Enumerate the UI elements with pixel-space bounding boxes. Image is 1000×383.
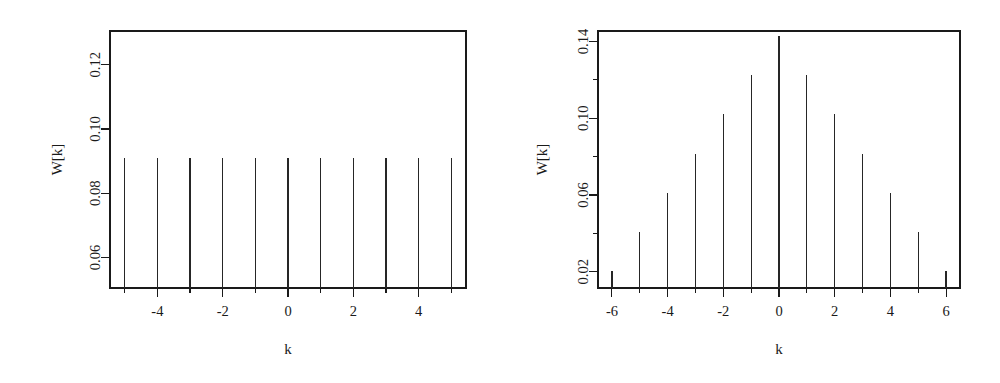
right-plot-svg: -6-4-202460.020.060.100.14kW[k] <box>500 0 1000 383</box>
x-tick-label: 6 <box>942 303 949 319</box>
y-tick-label: 0.08 <box>87 181 103 206</box>
y-tick-label: 0.12 <box>87 52 103 77</box>
x-tick-label: -2 <box>217 303 229 319</box>
x-tick-label: -6 <box>606 303 618 319</box>
x-tick-label: 2 <box>831 303 838 319</box>
x-axis-title: k <box>775 341 783 357</box>
x-tick-label: 0 <box>284 303 291 319</box>
y-tick-label: 0.02 <box>575 259 591 284</box>
y-axis-title: W[k] <box>534 144 550 176</box>
y-tick-label: 0.06 <box>87 245 103 270</box>
panel-rectangular-window: -4-20240.060.080.100.12kW[k] <box>0 0 500 383</box>
x-tick-label: 4 <box>887 303 895 319</box>
x-tick-label: -2 <box>717 303 729 319</box>
y-tick-label: 0.14 <box>575 28 591 54</box>
x-tick-label: -4 <box>151 303 164 319</box>
y-tick-label: 0.10 <box>575 106 591 131</box>
y-tick-label: 0.06 <box>575 182 591 207</box>
x-axis-title: k <box>284 341 292 357</box>
y-tick-label: 0.10 <box>87 116 103 141</box>
x-tick-label: 2 <box>350 303 357 319</box>
x-tick-label: -4 <box>662 303 675 319</box>
panel-triangular-window: -6-4-202460.020.060.100.14kW[k] <box>500 0 1000 383</box>
x-tick-label: 0 <box>775 303 782 319</box>
left-plot-svg: -4-20240.060.080.100.12kW[k] <box>0 0 500 383</box>
x-tick-label: 4 <box>415 303 423 319</box>
y-axis-title: W[k] <box>49 144 65 176</box>
figure-root: -4-20240.060.080.100.12kW[k] -6-4-202460… <box>0 0 1000 383</box>
